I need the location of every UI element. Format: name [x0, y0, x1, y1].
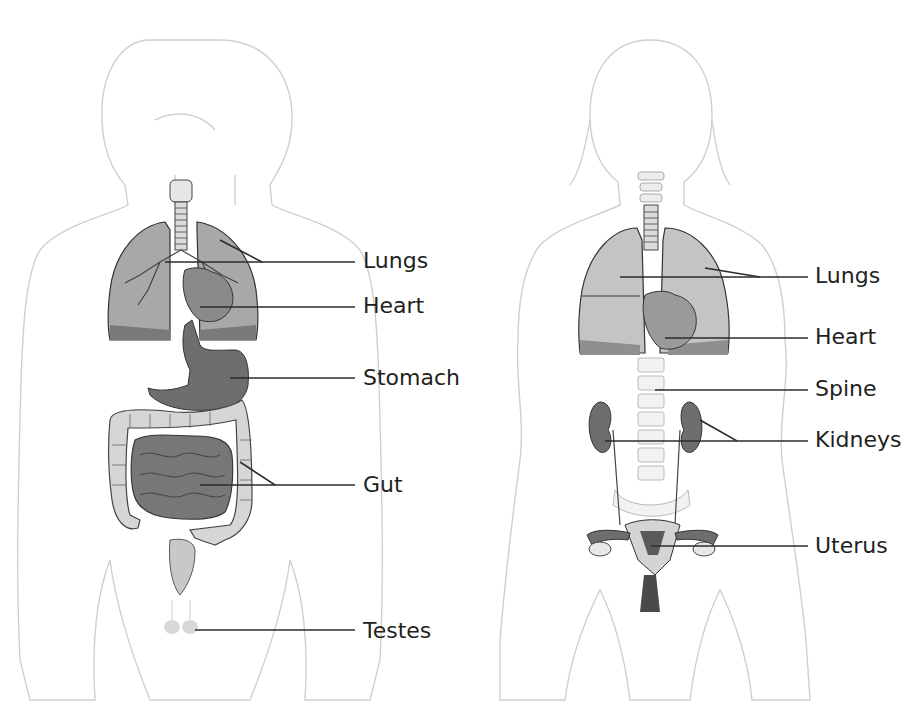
male-figure: [18, 40, 383, 700]
label-female-spine: Spine: [815, 378, 877, 400]
label-male-gut: Gut: [363, 474, 403, 496]
female-right-kidney: [681, 402, 702, 452]
label-male-lungs: Lungs: [363, 250, 428, 272]
label-male-testes: Testes: [363, 620, 431, 642]
label-female-lungs: Lungs: [815, 265, 880, 287]
female-figure: [500, 40, 810, 700]
label-female-kidneys: Kidneys: [815, 429, 901, 451]
label-male-stomach: Stomach: [363, 367, 460, 389]
label-male-heart: Heart: [363, 295, 424, 317]
larynx: [170, 180, 192, 202]
female-cervical-spine: [638, 172, 664, 202]
label-female-uterus: Uterus: [815, 535, 888, 557]
label-female-heart: Heart: [815, 326, 876, 348]
anatomy-diagram: [0, 0, 921, 711]
